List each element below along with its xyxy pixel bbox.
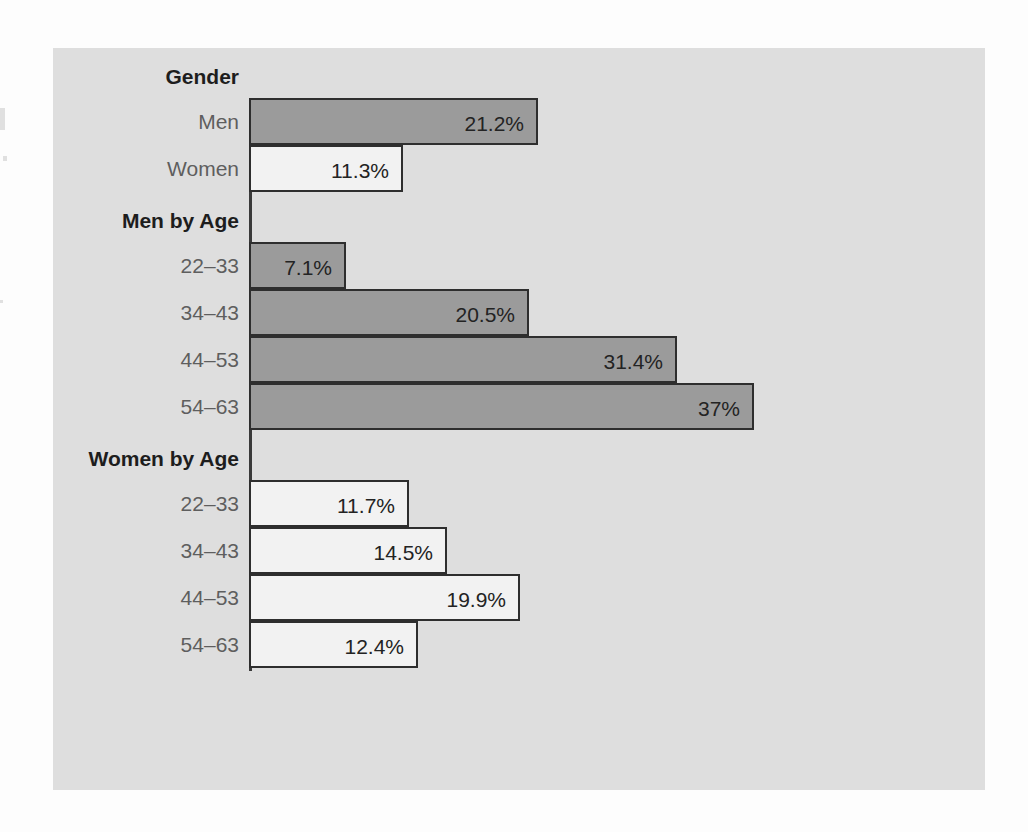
bar-value-label: 14.5% (373, 529, 433, 576)
bar-chart-plot: GenderMen21.2%Women11.3%Men by Age22–337… (53, 48, 985, 790)
bar-value-label: 11.7% (337, 482, 395, 529)
group-header-men-by-age: Men by Age (53, 200, 985, 242)
chart-row: 54–6312.4% (53, 621, 985, 668)
category-label: 22–33 (181, 480, 239, 527)
chart-row: 22–337.1% (53, 242, 985, 289)
scan-artifact-speck (0, 108, 5, 130)
category-label: 34–43 (181, 289, 239, 336)
scan-artifact-speck (0, 300, 3, 303)
bar-women-by-age-2[interactable]: 19.9% (249, 574, 520, 621)
group-header-women-by-age: Women by Age (53, 438, 985, 480)
group-header-label: Women by Age (88, 438, 239, 480)
category-label: 34–43 (181, 527, 239, 574)
bar-gender-1[interactable]: 11.3% (249, 145, 403, 192)
bar-men-by-age-3[interactable]: 37% (249, 383, 754, 430)
bar-women-by-age-0[interactable]: 11.7% (249, 480, 409, 527)
chart-row: Women11.3% (53, 145, 985, 192)
chart-row: 34–4320.5% (53, 289, 985, 336)
scanned-page: GenderMen21.2%Women11.3%Men by Age22–337… (0, 0, 1028, 832)
category-label: Women (167, 145, 239, 192)
bar-gender-0[interactable]: 21.2% (249, 98, 538, 145)
bar-value-label: 11.3% (331, 147, 389, 194)
chart-row: Men21.2% (53, 98, 985, 145)
bar-men-by-age-2[interactable]: 31.4% (249, 336, 677, 383)
bar-value-label: 21.2% (464, 100, 524, 147)
bar-value-label: 31.4% (603, 338, 663, 385)
scan-artifact-speck (3, 156, 7, 161)
chart-row: 22–3311.7% (53, 480, 985, 527)
chart-row: 44–5331.4% (53, 336, 985, 383)
category-label: 54–63 (181, 621, 239, 668)
bar-value-label: 7.1% (284, 244, 332, 291)
category-label: 54–63 (181, 383, 239, 430)
group-header-label: Men by Age (122, 200, 239, 242)
category-label: 44–53 (181, 574, 239, 621)
category-label: 22–33 (181, 242, 239, 289)
category-label: Men (198, 98, 239, 145)
bar-women-by-age-1[interactable]: 14.5% (249, 527, 447, 574)
bar-value-label: 37% (698, 385, 740, 432)
bar-men-by-age-0[interactable]: 7.1% (249, 242, 346, 289)
chart-row: 44–5319.9% (53, 574, 985, 621)
bar-value-label: 19.9% (446, 576, 506, 623)
group-header-label: Gender (165, 56, 239, 98)
bar-value-label: 20.5% (455, 291, 515, 338)
chart-row: 54–6337% (53, 383, 985, 430)
bar-value-label: 12.4% (344, 623, 404, 670)
category-label: 44–53 (181, 336, 239, 383)
bar-women-by-age-3[interactable]: 12.4% (249, 621, 418, 668)
chart-panel: GenderMen21.2%Women11.3%Men by Age22–337… (53, 48, 985, 790)
bar-men-by-age-1[interactable]: 20.5% (249, 289, 529, 336)
group-header-gender: Gender (53, 56, 985, 98)
chart-row: 34–4314.5% (53, 527, 985, 574)
